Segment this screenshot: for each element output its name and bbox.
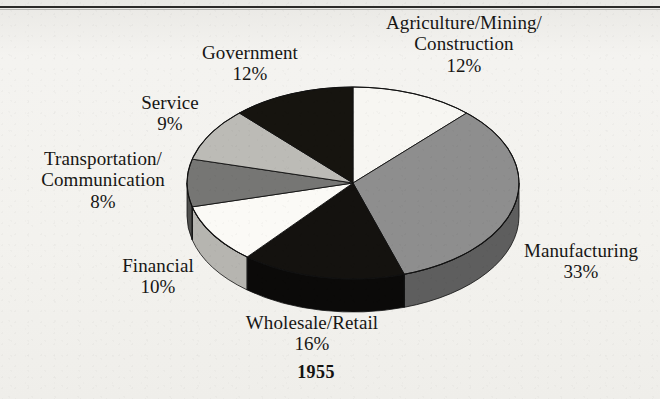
- pie-chart-figure: Agriculture/Mining/ Construction 12% Gov…: [0, 0, 660, 399]
- slice-label-financial-line1: Financial: [88, 255, 228, 276]
- chart-year-caption: 1955: [256, 362, 376, 383]
- pie-top-faces: [187, 87, 519, 279]
- slice-label-manufacturing-line1: Manufacturing: [506, 240, 656, 261]
- slice-label-service: Service 9%: [106, 92, 234, 135]
- slice-label-wholesale-retail-line1: Wholesale/Retail: [212, 312, 412, 333]
- slice-label-transportation-line2: Communication: [8, 169, 198, 190]
- slice-value-government: 12%: [172, 63, 328, 84]
- slice-label-agriculture: Agriculture/Mining/ Construction 12%: [356, 12, 572, 76]
- slice-value-financial: 10%: [88, 276, 228, 297]
- slice-label-agriculture-line2: Construction: [356, 33, 572, 54]
- slice-value-wholesale-retail: 16%: [212, 333, 412, 354]
- slice-label-government-line1: Government: [172, 42, 328, 63]
- slice-label-agriculture-line1: Agriculture/Mining/: [356, 12, 572, 33]
- slice-label-manufacturing: Manufacturing 33%: [506, 240, 656, 283]
- slice-value-service: 9%: [106, 113, 234, 134]
- slice-label-transportation-line1: Transportation/: [8, 148, 198, 169]
- slice-label-transportation: Transportation/ Communication 8%: [8, 148, 198, 212]
- slice-value-agriculture: 12%: [356, 55, 572, 76]
- slice-label-service-line1: Service: [106, 92, 234, 113]
- slice-label-wholesale-retail: Wholesale/Retail 16%: [212, 312, 412, 355]
- slice-label-government: Government 12%: [172, 42, 328, 85]
- slice-value-transportation: 8%: [8, 191, 198, 212]
- slice-label-financial: Financial 10%: [88, 255, 228, 298]
- slice-value-manufacturing: 33%: [506, 261, 656, 282]
